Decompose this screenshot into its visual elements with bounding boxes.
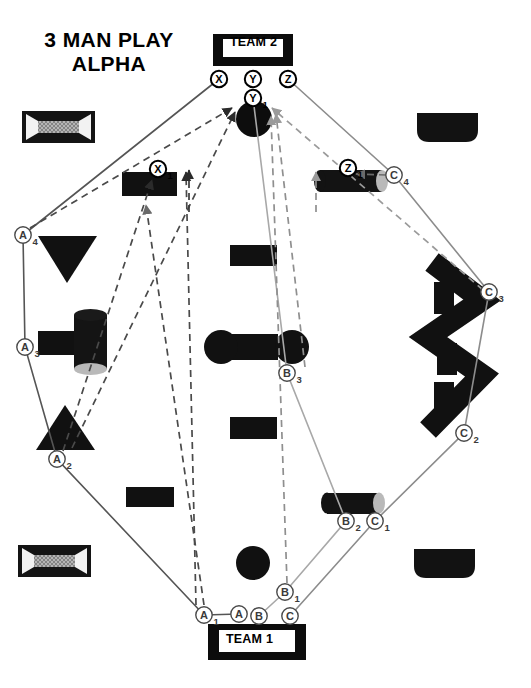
marker-label: C bbox=[390, 169, 398, 181]
marker-label: X bbox=[215, 73, 223, 85]
marker-subscript: 1 bbox=[263, 99, 269, 110]
fire-line-b3-y1 bbox=[276, 114, 305, 367]
fire-line-a1-y1 bbox=[186, 172, 196, 605]
marker-label: C bbox=[371, 515, 379, 527]
player-marker-a1[interactable]: A1 bbox=[196, 607, 220, 627]
net-goal-top-left-icon bbox=[22, 111, 95, 143]
marker-label: C bbox=[286, 610, 294, 622]
net-goal-bottom-left-icon bbox=[18, 545, 91, 577]
triangle-up-left-icon bbox=[36, 405, 95, 450]
dome-top-right-icon bbox=[417, 113, 478, 142]
player-marker-b2[interactable]: B2 bbox=[338, 513, 361, 533]
marker-label: A bbox=[235, 608, 243, 620]
marker-label: X bbox=[154, 163, 162, 175]
cylinder-bottom-right-icon bbox=[321, 493, 385, 515]
player-marker-b[interactable]: B bbox=[251, 608, 267, 624]
page-title: 3 MAN PLAY ALPHA bbox=[14, 28, 204, 75]
marker-subscript: 1 bbox=[214, 616, 220, 627]
marker-label: A bbox=[200, 609, 208, 621]
marker-label: B bbox=[283, 367, 291, 379]
marker-subscript: 3 bbox=[499, 293, 504, 304]
marker-subscript: 2 bbox=[474, 434, 479, 445]
marker-label: Z bbox=[345, 162, 352, 174]
marker-subscript: 1 bbox=[358, 169, 364, 180]
player-marker-x[interactable]: X bbox=[211, 71, 227, 87]
bunker-center-lower-icon bbox=[230, 417, 277, 439]
title-line-2: ALPHA bbox=[14, 52, 204, 76]
player-marker-a2[interactable]: A2 bbox=[49, 451, 72, 471]
bar-cylinder-left-icon bbox=[38, 309, 107, 375]
player-marker-y[interactable]: Y bbox=[245, 71, 261, 87]
marker-subscript: 1 bbox=[168, 170, 174, 181]
marker-subscript: 1 bbox=[385, 522, 391, 533]
circle-center-bottom-icon bbox=[236, 546, 270, 580]
marker-subscript: 4 bbox=[33, 236, 39, 247]
bunker-left-lower-icon bbox=[126, 487, 174, 507]
player-marker-a[interactable]: A bbox=[231, 606, 247, 622]
marker-label: Y bbox=[249, 92, 257, 104]
marker-label: Z bbox=[285, 73, 292, 85]
marker-label: Y bbox=[249, 73, 257, 85]
triangle-down-left-icon bbox=[38, 236, 97, 283]
marker-label: A bbox=[21, 341, 29, 353]
player-marker-c4[interactable]: C4 bbox=[386, 167, 410, 187]
marker-label: C bbox=[460, 427, 468, 439]
marker-label: C bbox=[485, 286, 493, 298]
player-marker-c1[interactable]: C1 bbox=[367, 513, 391, 533]
player-marker-c2[interactable]: C2 bbox=[456, 425, 479, 445]
marker-label: A bbox=[19, 229, 27, 241]
title-line-1: 3 MAN PLAY bbox=[44, 28, 173, 51]
marker-subscript: 3 bbox=[35, 348, 40, 359]
marker-subscript: 2 bbox=[67, 460, 72, 471]
marker-label: B bbox=[342, 515, 350, 527]
player-marker-c[interactable]: C bbox=[282, 608, 298, 624]
marker-label: B bbox=[281, 586, 289, 598]
bunker-right-a-icon bbox=[434, 282, 454, 314]
player-marker-a4[interactable]: A4 bbox=[15, 227, 39, 247]
diagram-page: XYZY1X1Z1A1ABCA2A3A4B1B2B3C1C2C3C4 3 MAN… bbox=[0, 0, 531, 688]
team2-label: TEAM 2 bbox=[230, 35, 277, 49]
bunker-center-upper-icon bbox=[230, 245, 277, 266]
tactical-field-diagram: XYZY1X1Z1A1ABCA2A3A4B1B2B3C1C2C3C4 bbox=[0, 0, 531, 688]
marker-subscript: 3 bbox=[297, 374, 302, 385]
marker-subscript: 4 bbox=[404, 176, 410, 187]
bunker-right-b-icon bbox=[437, 343, 457, 375]
dome-bottom-right-icon bbox=[414, 549, 475, 578]
bunker-right-c-icon bbox=[434, 382, 454, 414]
team1-label: TEAM 1 bbox=[226, 632, 273, 646]
player-marker-z[interactable]: Z bbox=[280, 71, 296, 87]
marker-label: A bbox=[53, 453, 61, 465]
marker-subscript: 1 bbox=[295, 593, 301, 604]
player-marker-b1[interactable]: B1 bbox=[277, 584, 301, 604]
dumbbell-center-icon bbox=[204, 330, 309, 364]
marker-subscript: 2 bbox=[356, 522, 361, 533]
marker-label: B bbox=[255, 610, 263, 622]
obstacle-layer bbox=[18, 34, 482, 660]
